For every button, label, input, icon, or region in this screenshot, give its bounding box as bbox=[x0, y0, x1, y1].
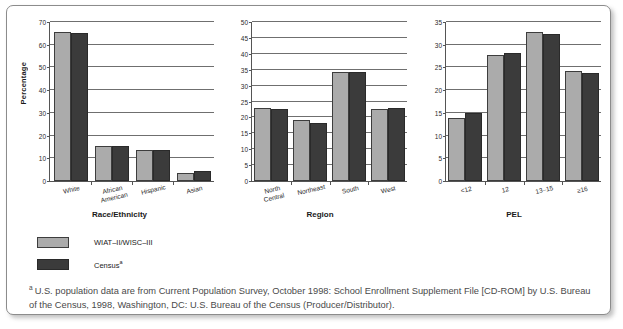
bar bbox=[310, 123, 327, 182]
bar-group bbox=[485, 22, 524, 181]
x-axis-title-pel: PEL bbox=[419, 210, 609, 219]
x-axis-title-region: Region bbox=[225, 210, 415, 219]
y-tick-label: 20 bbox=[241, 114, 248, 121]
footnote-text: U.S. population data are from Current Po… bbox=[29, 286, 590, 310]
bar bbox=[349, 72, 366, 181]
bar-group bbox=[368, 22, 407, 181]
y-tick-label: 50 bbox=[241, 19, 248, 26]
legend-item-census: Censusa bbox=[37, 256, 153, 273]
legend-label-census-superscript: a bbox=[119, 259, 122, 265]
bar bbox=[153, 150, 170, 181]
y-axis-title-race-ethnicity: Percentage bbox=[19, 62, 33, 104]
bar-group bbox=[446, 22, 485, 181]
bars-pel bbox=[446, 22, 601, 181]
bar-group bbox=[50, 22, 91, 181]
footnote: aU.S. population data are from Current P… bbox=[29, 281, 592, 312]
bar-group bbox=[252, 22, 291, 181]
y-tick-label: 40 bbox=[241, 50, 248, 57]
bar bbox=[136, 150, 153, 181]
y-tick-label: 35 bbox=[241, 66, 248, 73]
chart-panel-race-ethnicity: Percentage 010203040506070 WhiteAfrican … bbox=[17, 14, 222, 226]
legend-swatch-wiat-wisc bbox=[37, 237, 69, 248]
bar bbox=[504, 53, 521, 181]
charts-row: Percentage 010203040506070 WhiteAfrican … bbox=[7, 6, 612, 228]
legend-swatch-census bbox=[37, 259, 69, 270]
x-tick-label: African American bbox=[92, 181, 136, 206]
x-axis-title-race-ethnicity: Race/Ethnicity bbox=[17, 210, 222, 219]
y-tick-label: 20 bbox=[39, 132, 46, 139]
bar bbox=[448, 118, 465, 181]
plot-box-race-ethnicity: 010203040506070 WhiteAfrican AmericanHis… bbox=[49, 22, 214, 182]
axis-area-region: 05101520253035404550 North CentralNorthe… bbox=[251, 22, 407, 182]
bar bbox=[112, 146, 129, 181]
y-tick-label: 50 bbox=[39, 64, 46, 71]
bar bbox=[95, 146, 112, 181]
figure-root: Percentage 010203040506070 WhiteAfrican … bbox=[0, 0, 623, 329]
bar bbox=[71, 33, 88, 181]
bar-group bbox=[562, 22, 601, 181]
y-tick-label: 20 bbox=[435, 87, 442, 94]
bar bbox=[194, 171, 211, 181]
y-tick-label: 0 bbox=[244, 178, 248, 185]
legend-label-census: Censusa bbox=[94, 259, 123, 270]
y-tick-label: 70 bbox=[39, 19, 46, 26]
y-tick-label: 5 bbox=[438, 155, 442, 162]
bar bbox=[54, 32, 71, 181]
y-tick-label: 15 bbox=[435, 109, 442, 116]
bars-region bbox=[252, 22, 407, 181]
bar bbox=[388, 108, 405, 181]
plot-box-pel: 05101520253035 <121213–15≥16 bbox=[445, 22, 601, 182]
bar bbox=[543, 34, 560, 181]
plot-area-pel: 05101520253035 <121213–15≥16 bbox=[419, 14, 609, 186]
y-tick-label: 10 bbox=[435, 132, 442, 139]
axis-area-pel: 05101520253035 <121213–15≥16 bbox=[445, 22, 601, 182]
y-tick-label: 25 bbox=[241, 98, 248, 105]
x-tick-labels-pel: <121213–15≥16 bbox=[446, 186, 601, 194]
legend-item-wiat-wisc: WIAT–II/WISC–III bbox=[37, 234, 153, 251]
plot-area-region: 05101520253035404550 North CentralNorthe… bbox=[225, 14, 415, 186]
y-tick-label: 30 bbox=[435, 41, 442, 48]
y-tick-label: 30 bbox=[241, 82, 248, 89]
bar-group bbox=[291, 22, 330, 181]
chart-panel-pel: 05101520253035 <121213–15≥16 PEL bbox=[419, 14, 609, 226]
y-tick-label: 30 bbox=[39, 109, 46, 116]
bar bbox=[371, 109, 388, 181]
footnote-marker: a bbox=[29, 284, 33, 291]
y-tick-label: 5 bbox=[244, 162, 248, 169]
plot-area-race-ethnicity: Percentage 010203040506070 WhiteAfrican … bbox=[17, 14, 222, 186]
bar bbox=[332, 72, 349, 181]
figure-frame: Percentage 010203040506070 WhiteAfrican … bbox=[6, 5, 611, 315]
legend: WIAT–II/WISC–III Censusa bbox=[37, 234, 153, 278]
y-tick-label: 45 bbox=[241, 34, 248, 41]
bar-group bbox=[91, 22, 132, 181]
bar bbox=[254, 108, 271, 181]
legend-label-census-text: Census bbox=[94, 261, 119, 270]
x-tick-labels-race-ethnicity: WhiteAfrican AmericanHispanicAsian bbox=[50, 186, 214, 202]
plot-box-region: 05101520253035404550 North CentralNorthe… bbox=[251, 22, 407, 182]
chart-panel-region: 05101520253035404550 North CentralNorthe… bbox=[225, 14, 415, 226]
axis-area-race-ethnicity: 010203040506070 WhiteAfrican AmericanHis… bbox=[49, 22, 214, 182]
bars-race-ethnicity bbox=[50, 22, 214, 181]
bar bbox=[565, 71, 582, 181]
bar bbox=[271, 109, 288, 181]
legend-label-wiat-wisc: WIAT–II/WISC–III bbox=[94, 238, 153, 247]
bar bbox=[293, 120, 310, 181]
y-tick-label: 0 bbox=[42, 178, 46, 185]
bar bbox=[582, 73, 599, 181]
y-tick-label: 0 bbox=[438, 178, 442, 185]
bar bbox=[526, 32, 543, 181]
y-tick-label: 10 bbox=[241, 146, 248, 153]
y-tick-label: 35 bbox=[435, 19, 442, 26]
bar bbox=[177, 173, 194, 181]
y-tick-label: 15 bbox=[241, 130, 248, 137]
y-tick-label: 10 bbox=[39, 155, 46, 162]
x-tick-label: North Central bbox=[252, 182, 293, 206]
y-tick-label: 25 bbox=[435, 64, 442, 71]
y-tick-label: 40 bbox=[39, 87, 46, 94]
bar bbox=[465, 113, 482, 181]
bar-group bbox=[524, 22, 563, 181]
x-tick-labels-region: North CentralNortheastSouthWest bbox=[252, 186, 407, 202]
y-tick-label: 60 bbox=[39, 41, 46, 48]
bar-group bbox=[173, 22, 214, 181]
bar bbox=[487, 55, 504, 181]
